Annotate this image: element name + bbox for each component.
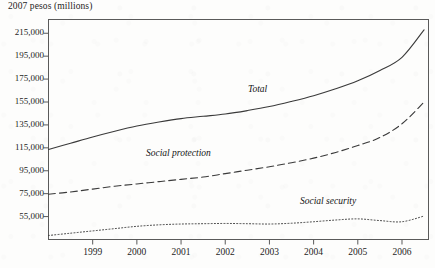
series-label-total: Total: [248, 84, 267, 94]
x-axis-tick-marks: [93, 240, 402, 245]
x-tick-label: 2003: [249, 247, 289, 257]
plot-area: [0, 0, 435, 268]
x-tick-label: 2006: [382, 247, 422, 257]
series-label-social-security: Social security: [300, 196, 356, 206]
plot-frame: [49, 20, 429, 240]
x-tick-label: 2001: [161, 247, 201, 257]
x-tick-label: 1999: [73, 247, 113, 257]
y-tick-label: 175,000: [2, 73, 44, 83]
y-tick-label: 95,000: [2, 165, 44, 175]
y-tick-label: 195,000: [2, 50, 44, 60]
series-label-social-protection: Social protection: [146, 148, 211, 158]
y-tick-label: 155,000: [2, 96, 44, 106]
series-line-total: [49, 30, 425, 150]
y-tick-label: 55,000: [2, 211, 44, 221]
chart-figure: 2007 pesos (millions) 55,00075,00095,000…: [0, 0, 435, 268]
data-series-group: [49, 30, 425, 236]
x-tick-label: 2000: [117, 247, 157, 257]
x-tick-label: 2005: [338, 247, 378, 257]
y-tick-label: 215,000: [2, 27, 44, 37]
x-tick-label: 2002: [205, 247, 245, 257]
y-tick-label: 75,000: [2, 188, 44, 198]
series-line-social-protection: [49, 102, 425, 194]
x-tick-label: 2004: [294, 247, 334, 257]
series-line-social-security: [49, 216, 425, 235]
y-axis-tick-marks: [44, 33, 49, 216]
y-tick-label: 135,000: [2, 119, 44, 129]
y-tick-label: 115,000: [2, 142, 44, 152]
